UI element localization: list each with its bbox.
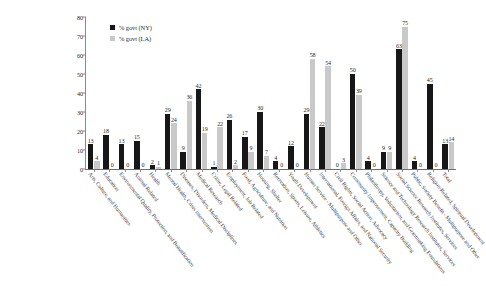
bar-la: 14 (449, 142, 455, 169)
bar-group: 6375 (394, 17, 409, 169)
bar-value-label: 13 (88, 138, 94, 144)
bar-ny: 4 (365, 161, 371, 169)
bar-value-label: 26 (226, 113, 232, 119)
bar-value-label: 1 (212, 160, 215, 166)
bar-value-label: 22 (319, 121, 325, 127)
bar-value-label: 2 (234, 159, 237, 165)
bar-value-label: 0 (280, 162, 283, 168)
bar-value-label: 63 (396, 43, 402, 49)
bar-value-label: 13 (442, 138, 448, 144)
bar-la: 39 (356, 95, 362, 169)
bar-group: 450 (425, 17, 440, 169)
bar-la: 75 (402, 27, 408, 170)
bar-value-label: 18 (103, 128, 109, 134)
bar-la: 58 (310, 59, 316, 169)
bar-value-label: 0 (373, 162, 376, 168)
bar-value-label: 22 (217, 121, 223, 127)
bar-value-label: 75 (402, 20, 408, 26)
bar-group: 1314 (441, 17, 456, 169)
bar-group: 40 (410, 17, 425, 169)
bar-value-label: 19 (202, 126, 208, 132)
bar-value-label: 9 (388, 145, 391, 151)
bar-la: 9 (248, 152, 254, 169)
bar-ny: 9 (180, 152, 186, 169)
bar-ny: 15 (134, 141, 140, 170)
bar-la: 36 (187, 101, 193, 169)
bar-la: 22 (217, 127, 223, 169)
bar-ny: 29 (165, 114, 171, 169)
bar-group: 2254 (317, 17, 332, 169)
legend-swatch-la-icon (110, 36, 115, 41)
bar-value-label: 0 (434, 162, 437, 168)
bar-ny: 63 (396, 49, 402, 169)
bar-ny: 45 (427, 84, 433, 170)
chart-legend: % govt (NY) % govt (LA) (110, 22, 152, 44)
bar-ny: 13 (119, 144, 125, 169)
bar-ny: 17 (242, 137, 248, 169)
bar-ny: 1 (211, 167, 217, 169)
bar-value-label: 9 (182, 145, 185, 151)
bar-value-label: 4 (413, 155, 416, 161)
bar-value-label: 29 (304, 107, 310, 113)
bar-value-label: 1 (157, 160, 160, 166)
bar-value-label: 42 (196, 83, 202, 89)
bar-ny: 30 (257, 112, 263, 169)
bar-ny: 42 (196, 89, 202, 169)
x-category-label: Total (442, 171, 454, 183)
bar-value-label: 3 (342, 157, 345, 163)
bar-la: 3 (341, 163, 347, 169)
bar-value-label: 4 (95, 155, 98, 161)
bar-ny: 22 (319, 127, 325, 169)
bar-value-label: 9 (382, 145, 385, 151)
bar-la: 7 (264, 156, 270, 169)
bar-value-label: 15 (134, 134, 140, 140)
bar-value-label: 0 (336, 162, 339, 168)
bar-la: 1 (156, 167, 162, 169)
bar-ny: 4 (273, 161, 279, 169)
bar-la: 24 (171, 123, 177, 169)
bar-group: 307 (256, 17, 271, 169)
bar-group: 134 (86, 17, 101, 169)
bar-value-label: 13 (119, 138, 125, 144)
legend-label-ny: % govt (NY) (119, 24, 152, 31)
bar-ny: 2 (150, 165, 156, 169)
bar-value-label: 9 (249, 145, 252, 151)
legend-label-la: % govt (LA) (119, 35, 151, 42)
bar-la: 9 (387, 152, 393, 169)
x-category-label: Health (149, 171, 163, 186)
bar-value-label: 50 (350, 67, 356, 73)
bar-value-label: 0 (126, 162, 129, 168)
legend-swatch-ny-icon (110, 25, 115, 30)
bar-group: 03 (333, 17, 348, 169)
legend-item-ny: % govt (NY) (110, 22, 152, 33)
bar-value-label: 12 (288, 140, 294, 146)
bar-ny: 12 (288, 146, 294, 169)
bar-group: 4219 (194, 17, 209, 169)
bar-group: 5039 (348, 17, 363, 169)
bar-group: 40 (364, 17, 379, 169)
bar-group: 2924 (163, 17, 178, 169)
bar-value-label: 4 (274, 155, 277, 161)
bar-la: 19 (202, 133, 208, 169)
bar-group: 40 (271, 17, 286, 169)
bar-ny: 18 (103, 135, 109, 169)
bar-value-label: 45 (427, 77, 433, 83)
bar-value-label: 0 (111, 162, 114, 168)
bar-ny: 50 (350, 74, 356, 169)
bar-value-label: 17 (242, 130, 248, 136)
bar-ny: 13 (442, 144, 448, 169)
bar-ny: 13 (88, 144, 94, 169)
bar-la: 2 (233, 165, 239, 169)
bar-value-label: 0 (296, 162, 299, 168)
bar-group: 262 (225, 17, 240, 169)
bar-value-label: 0 (142, 162, 145, 168)
bar-value-label: 29 (165, 107, 171, 113)
bar-ny: 26 (227, 120, 233, 169)
bar-value-label: 36 (186, 94, 192, 100)
bar-group: 122 (209, 17, 224, 169)
bar-value-label: 4 (367, 155, 370, 161)
bar-value-label: 0 (419, 162, 422, 168)
bar-group: 2958 (302, 17, 317, 169)
bar-value-label: 54 (325, 60, 331, 66)
bar-group: 99 (379, 17, 394, 169)
